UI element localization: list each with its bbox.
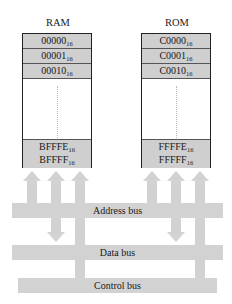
- arrow-down-icon: [167, 232, 185, 242]
- arrow-shaft: [27, 181, 37, 203]
- rom-cell: FFFFE16: [142, 139, 210, 154]
- ram-title: RAM: [22, 17, 94, 28]
- rom-memory-block: C000016 C000116 C001016 FFFFE16 FFFFF16: [141, 33, 211, 168]
- ellipsis-dots: [57, 86, 59, 138]
- arrow-up-icon: [23, 171, 41, 181]
- rom-cell: C000116: [142, 49, 210, 64]
- data-bus: Data bus: [12, 245, 223, 260]
- arrow-shaft: [195, 181, 205, 203]
- connector-line: [195, 260, 205, 278]
- ram-cell: BFFFF16: [23, 153, 91, 168]
- connector-line: [195, 218, 205, 245]
- arrow-shaft: [147, 181, 157, 203]
- arrow-up-icon: [71, 171, 89, 181]
- rom-cell: FFFFF16: [142, 153, 210, 168]
- arrow-shaft: [171, 218, 181, 232]
- ram-cell: BFFFE16: [23, 139, 91, 154]
- arrow-shaft: [51, 218, 61, 232]
- ram-cell: 0000116: [23, 49, 91, 64]
- arrow-up-icon: [47, 171, 65, 181]
- address-bus: Address bus: [12, 203, 223, 218]
- rom-cell: C001016: [142, 64, 210, 79]
- ellipsis-dots: [176, 86, 178, 138]
- arrow-up-icon: [191, 171, 209, 181]
- ram-cell: 0000016: [23, 34, 91, 49]
- arrow-up-icon: [143, 171, 161, 181]
- arrow-shaft: [171, 181, 181, 203]
- control-bus: Control bus: [18, 278, 217, 293]
- arrow-up-icon: [167, 171, 185, 181]
- ram-cell: 0001016: [23, 64, 91, 79]
- rom-cell: C000016: [142, 34, 210, 49]
- rom-title: ROM: [141, 17, 213, 28]
- ram-memory-block: 0000016 0000116 0001016 BFFFE16 BFFFF16: [22, 33, 92, 168]
- connector-line: [75, 218, 85, 245]
- connector-line: [75, 260, 85, 278]
- arrow-down-icon: [47, 232, 65, 242]
- arrow-shaft: [75, 181, 85, 203]
- arrow-shaft: [51, 181, 61, 203]
